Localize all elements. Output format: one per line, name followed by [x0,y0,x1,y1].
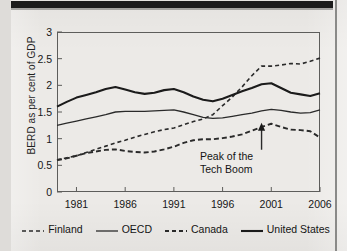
x-tick-label: 1996 [203,198,243,210]
series-line-united-states [57,83,320,106]
legend-swatch-dashed-icon [22,225,44,233]
legend-label: Canada [191,223,228,235]
y-tick-label: 2 [26,80,52,90]
line-chart-figure: BERD as per cent of GDP 00.511.522.53 19… [0,10,335,251]
data-series-group [57,58,320,160]
x-tick-label: 2006 [300,198,340,210]
chart-legend: FinlandOECDCanadaUnited States [22,220,330,238]
legend-swatch-dashed-icon [165,225,187,233]
x-axis-ticks [76,187,320,192]
y-axis-tick-labels: 00.511.522.53 [22,10,52,251]
annotation-line-2: Tech Boom [200,163,286,176]
legend-label: Finland [48,223,82,235]
legend-swatch-solid-icon [241,225,263,233]
page-top-bar [11,1,333,8]
series-line-finland [57,58,320,160]
annotation-label: Peak of the Tech Boom [200,150,286,175]
y-tick-label: 1 [26,134,52,144]
page-right-rule [335,0,337,251]
legend-label: United States [267,223,330,235]
y-axis-ticks [57,32,62,192]
legend-item-canada[interactable]: Canada [165,223,228,235]
x-tick-label: 1986 [105,198,145,210]
y-tick-label: 1.5 [26,107,52,117]
y-tick-label: 2.5 [26,54,52,64]
legend-item-united-states[interactable]: United States [241,223,330,235]
legend-label: OECD [122,223,152,235]
legend-item-finland[interactable]: Finland [22,223,82,235]
x-tick-label: 1991 [154,198,194,210]
x-tick-label: 1981 [56,198,96,210]
legend-item-oecd[interactable]: OECD [96,223,152,235]
annotation-line-1: Peak of the [200,150,286,163]
y-tick-label: 0 [26,187,52,197]
scanned-page: BERD as per cent of GDP 00.511.522.53 19… [0,0,347,251]
x-tick-label: 2001 [251,198,291,210]
legend-swatch-solid-icon [96,225,118,233]
y-tick-label: 3 [26,27,52,37]
y-tick-label: 0.5 [26,160,52,170]
